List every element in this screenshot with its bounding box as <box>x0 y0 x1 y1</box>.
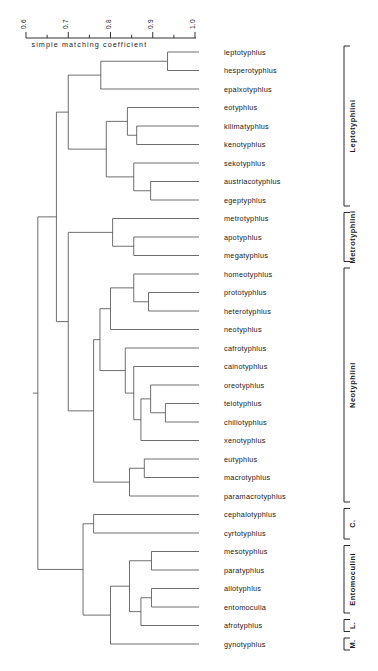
leaf-label: paratyphlus <box>224 566 265 575</box>
leaf-label: homeotyphlus <box>224 270 273 279</box>
leaf-label: megatyphlus <box>224 251 268 260</box>
dendrogram-canvas: 0.60.70.80.91.0simple matching coefficie… <box>0 0 378 671</box>
leaf-label: allotyphlus <box>224 584 261 593</box>
leaf-label: neotyphlus <box>224 325 262 334</box>
leaf-label: xenotyphlus <box>224 436 266 445</box>
leaf-label: entomoculia <box>224 603 267 612</box>
leaf-label: cyrtotyphlus <box>224 529 266 538</box>
leaf-label: mesotyphlus <box>224 547 268 556</box>
dendrogram-branches <box>33 52 195 644</box>
dendrogram-figure: 0.60.70.80.91.0simple matching coefficie… <box>0 0 378 671</box>
group-label: Leptotyphlini <box>348 100 357 153</box>
leaf-label: telotyphlus <box>224 399 262 408</box>
leaf-label: eotyphlus <box>224 103 258 112</box>
leaf-label: afrotyphlus <box>224 621 263 630</box>
axis-caption: simple matching coefficient <box>31 40 147 49</box>
axis-tick-label: 0.6 <box>20 19 27 29</box>
group-label: Neotyphlini <box>348 362 357 408</box>
leaf-label: metrotyphlus <box>224 214 269 223</box>
axis-tick-label: 0.8 <box>105 19 112 29</box>
leaf-label: prototyphlus <box>224 288 267 297</box>
axis-tick-label: 0.9 <box>147 19 154 29</box>
leaf-label: paramacrotyphlus <box>224 492 286 501</box>
group-brackets: LeptotyphliniMetrotyphliniNeotyphliniC.E… <box>344 46 357 650</box>
leaf-label: kenotyphlus <box>224 140 266 149</box>
leaf-label: gynotyphlus <box>224 640 266 649</box>
axis: 0.60.70.80.91.0simple matching coefficie… <box>20 19 196 49</box>
leaf-label: heterotyphlus <box>224 307 271 316</box>
leaf-label: cainotyphlus <box>224 362 268 371</box>
group-label: Entomoculini <box>348 553 357 606</box>
group-label: Metrotyphlini <box>348 211 357 264</box>
leaf-labels: leptotyphlushesperotyphlusepalxotyphluse… <box>195 48 286 649</box>
leaf-label: apotyphlus <box>224 233 262 242</box>
leaf-label: epalxotyphlus <box>224 85 272 94</box>
leaf-label: oreotyphlus <box>224 381 265 390</box>
leaf-label: hesperotyphlus <box>224 66 277 75</box>
leaf-label: cephalotyphlus <box>224 510 276 519</box>
group-label: L. <box>348 622 357 629</box>
leaf-label: macrotyphlus <box>224 473 270 482</box>
leaf-label: sekotyphlus <box>224 159 265 168</box>
leaf-label: leptotyphlus <box>224 48 266 57</box>
leaf-label: eutyphlus <box>224 455 258 464</box>
leaf-label: chiliotyphlus <box>224 418 267 427</box>
leaf-label: egeptyphlus <box>224 196 266 205</box>
leaf-label: cafrotyphlus <box>224 344 266 353</box>
axis-tick-label: 1.0 <box>189 19 196 29</box>
axis-tick-label: 0.7 <box>62 19 69 29</box>
leaf-label: kilimatyphlus <box>224 122 269 131</box>
leaf-label: austriacotyphlus <box>224 177 281 186</box>
group-label: C. <box>348 520 357 528</box>
group-label: M. <box>348 640 357 649</box>
